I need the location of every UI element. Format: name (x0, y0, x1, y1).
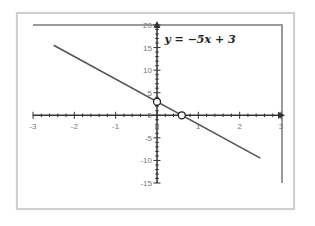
x-tick-label: -3 (29, 122, 37, 131)
y-tick-label: 15 (143, 44, 152, 53)
line-chart: -3-2-1012320151050-5-10-15 y = −5x + 3 (0, 0, 315, 226)
equation-label: y = −5x + 3 (163, 33, 236, 46)
y-tick-label: 0 (148, 111, 153, 120)
x-tick-label: 2 (237, 122, 242, 131)
x-tick-label: 0 (155, 122, 160, 131)
x-tick-label: 3 (279, 122, 284, 131)
y-intercept-point (154, 98, 161, 105)
x-tick-label: -1 (112, 122, 120, 131)
x-tick-label: -2 (71, 122, 79, 131)
y-tick-label: 20 (143, 21, 152, 30)
y-tick-label: -10 (140, 156, 152, 165)
y-tick-label: 10 (143, 66, 152, 75)
y-tick-label: -15 (140, 179, 152, 188)
x-intercept-point (178, 112, 185, 119)
y-tick-label: -5 (145, 134, 153, 143)
